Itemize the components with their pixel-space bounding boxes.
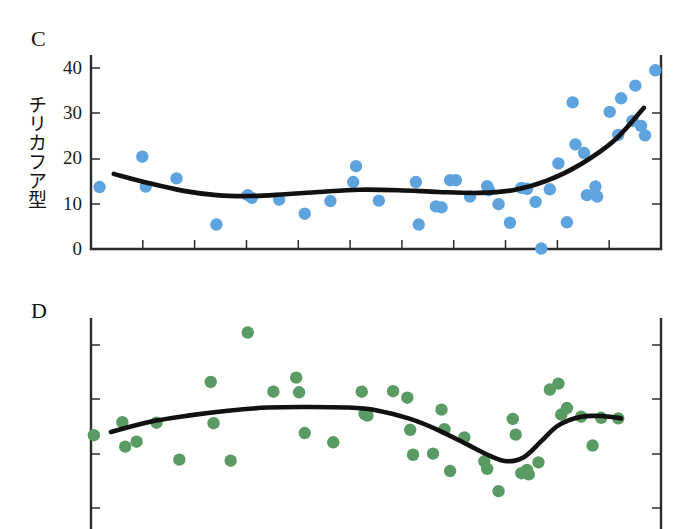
data-point: [523, 468, 535, 480]
panel-d-letter: D: [31, 298, 47, 324]
data-point: [224, 455, 236, 467]
data-point: [242, 326, 254, 338]
data-point: [552, 377, 564, 389]
data-point: [205, 376, 217, 388]
data-point: [586, 439, 598, 451]
data-point: [435, 403, 447, 415]
data-point: [492, 485, 504, 497]
data-point: [130, 436, 142, 448]
data-point: [507, 413, 519, 425]
data-point: [404, 424, 416, 436]
data-point: [387, 385, 399, 397]
data-point: [407, 449, 419, 461]
data-point: [119, 440, 131, 452]
data-point: [173, 453, 185, 465]
data-point: [207, 417, 219, 429]
data-point: [481, 463, 493, 475]
panel-d-plot: [0, 0, 696, 261]
data-point: [356, 386, 368, 398]
data-point: [267, 386, 279, 398]
data-point: [299, 427, 311, 439]
panel-d: D 矢尻型 40 30 20 10: [0, 268, 696, 529]
panel-d-points: [88, 326, 625, 497]
data-point: [327, 436, 339, 448]
data-point: [293, 386, 305, 398]
figure-container: C チリカフア型 40 30 20 10 0 D 矢尻型: [0, 0, 696, 529]
panel-d-axes: [91, 318, 661, 529]
data-point: [444, 465, 456, 477]
data-point: [290, 371, 302, 383]
data-point: [427, 447, 439, 459]
data-point: [532, 456, 544, 468]
data-point: [509, 428, 521, 440]
data-point: [561, 402, 573, 414]
data-point: [88, 429, 100, 441]
data-point: [401, 392, 413, 404]
